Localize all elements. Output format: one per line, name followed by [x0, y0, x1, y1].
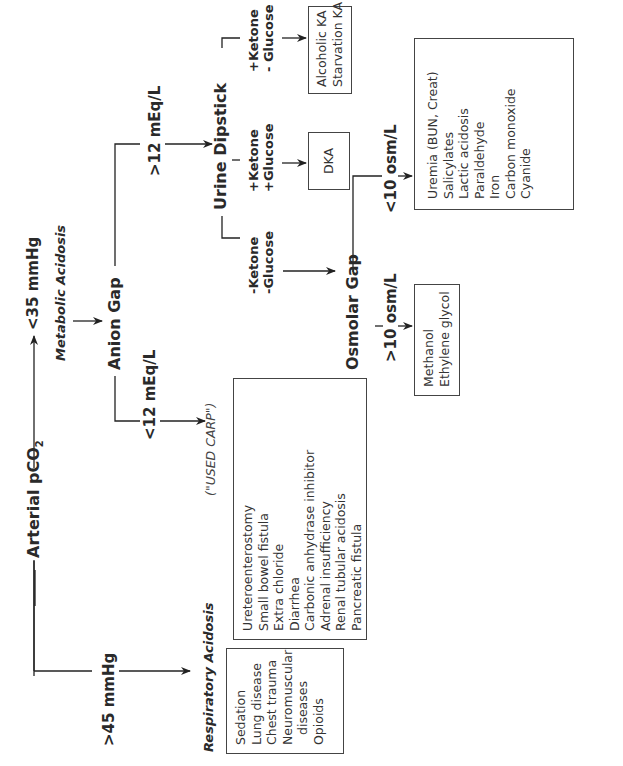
pos-ketone-text: +Ketone	[246, 124, 261, 192]
osmolar-gap-low-label: <10 osm/L	[384, 124, 399, 213]
list-item: Small bowel fistula	[256, 387, 272, 631]
list-item: Opioids	[311, 657, 327, 745]
low-pco2-label: <35 mmHg	[26, 237, 41, 330]
list-item: Diarrhea	[287, 387, 303, 631]
list-item: Lactic acidosis	[456, 49, 472, 199]
list-item: Adrenal insufficiency	[318, 387, 334, 631]
list-item: Salicylates	[441, 49, 457, 199]
list-item: Carbonic anhydrase inhibitor	[302, 387, 318, 631]
root-label-text: Arterial pCO	[24, 447, 43, 558]
list-item: diseases	[295, 657, 311, 745]
list-item: Alcoholic KA	[314, 13, 330, 87]
pos-ketone-neg-glucose: +Ketone - Glucose	[246, 5, 276, 73]
neg-glucose-text-2: - Glucose	[261, 5, 276, 73]
list-item: Uremia (BUN, Creat)	[425, 49, 441, 199]
list-item: Extra chloride	[271, 387, 287, 631]
list-item: Methanol	[421, 293, 437, 387]
list-item: Iron	[487, 49, 503, 199]
acidosis-flowchart: Arterial pCO2 >45 mmHg Respiratory Acido…	[0, 0, 623, 766]
dka-box: DKA	[308, 132, 350, 190]
respiratory-acidosis-label: Respiratory Acidosis	[202, 603, 215, 752]
metabolic-acidosis-label: Metabolic Acidosis	[54, 225, 67, 361]
pos-ketone-pos-glucose: +Ketone +Glucose	[246, 124, 276, 192]
neg-glucose-text: -Glucose	[261, 231, 276, 294]
list-item: Sedation	[233, 657, 249, 745]
neg-ketone-neg-glucose: -Ketone -Glucose	[246, 231, 276, 294]
list-item: Carbon monoxide	[503, 49, 519, 199]
non-anion-gap-causes-box: Ureteroenterostomy Small bowel fistula E…	[233, 378, 367, 640]
urine-dipstick-label: Urine Dipstick	[213, 83, 229, 210]
list-item: Chest trauma	[264, 657, 280, 745]
root-subscript: 2	[34, 440, 45, 447]
list-item: Paraldehyde	[472, 49, 488, 199]
anion-gap-high-label: >12 mEq/L	[148, 86, 163, 176]
list-item: Ureteroenterostomy	[240, 387, 256, 631]
anion-gap-label: Anion Gap	[107, 277, 123, 370]
list-item: Neuromuscular	[280, 657, 296, 745]
list-item: Starvation KA	[330, 13, 346, 87]
respiratory-acidosis-causes-box: Sedation Lung disease Chest trauma Neuro…	[226, 648, 344, 754]
anion-gap-low-label: <12 mEq/L	[143, 350, 158, 440]
neg-ketone-text: -Ketone	[246, 231, 261, 294]
list-item: Renal tubular acidosis	[333, 387, 349, 631]
list-item: Cyanide	[518, 49, 534, 199]
dka-label: DKA	[321, 141, 337, 181]
normal-osmolar-gap-causes-box: Uremia (BUN, Creat) Salicylates Lactic a…	[414, 38, 574, 210]
high-pco2-label: >45 mmHg	[102, 653, 117, 746]
high-osmolar-gap-causes-box: Methanol Ethylene glycol	[414, 284, 460, 396]
used-carp-mnemonic: ("USED CARP")	[205, 403, 218, 496]
osmolar-gap-label: Osmolar Gap	[345, 254, 361, 370]
root-label: Arterial pCO2	[26, 440, 45, 558]
ketoacidosis-box: Alcoholic KA Starvation KA	[308, 6, 352, 94]
pos-ketone-text-2: +Ketone	[246, 5, 261, 73]
list-item: Lung disease	[249, 657, 265, 745]
list-item: Pancreatic fistula	[349, 387, 365, 631]
osmolar-gap-high-label: >10 osm/L	[384, 273, 399, 362]
pos-glucose-text: +Glucose	[261, 124, 276, 192]
list-item: Ethylene glycol	[437, 293, 453, 387]
